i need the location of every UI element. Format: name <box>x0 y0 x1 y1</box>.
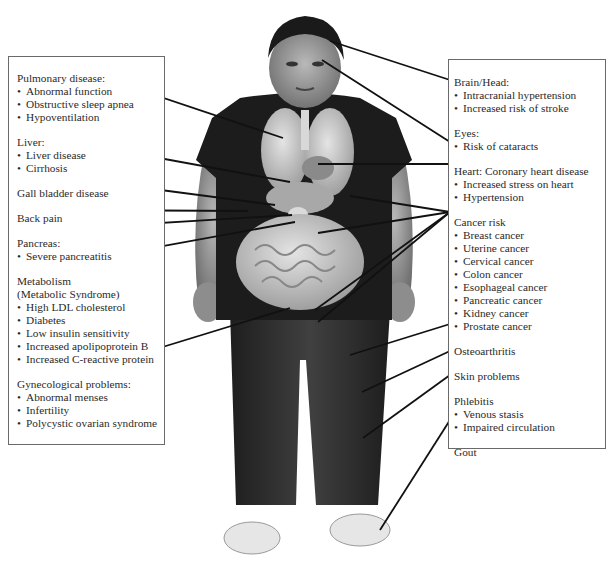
group-osteoarthritis: Osteoarthritis <box>454 345 605 358</box>
group-phlebitis: Phlebitis Venous stasis Impaired circula… <box>454 395 605 434</box>
list-item: High LDL cholesterol <box>17 301 164 314</box>
group-heart: Heart: Coronary heart disease Increased … <box>454 165 605 204</box>
list-item: Diabetes <box>17 314 164 327</box>
list-item: Abnormal menses <box>17 391 164 404</box>
list-item: Increased stress on heart <box>454 178 605 191</box>
list-item: Increased risk of stroke <box>454 102 605 115</box>
heading-back-pain: Back pain <box>17 212 164 225</box>
list-item: Risk of cataracts <box>454 140 605 153</box>
group-gynecological: Gynecological problems: Abnormal menses … <box>17 378 164 430</box>
list-item: Infertility <box>17 404 164 417</box>
group-pancreas: Pancreas: Severe pancreatitis <box>17 237 164 263</box>
list-item: Kidney cancer <box>454 307 605 320</box>
list-item: Abnormal function <box>17 85 164 98</box>
list-item: Pancreatic cancer <box>454 294 605 307</box>
group-liver: Liver: Liver disease Cirrhosis <box>17 136 164 175</box>
list-item: Hypoventilation <box>17 111 164 124</box>
heading-metabolism: Metabolism <box>17 275 164 288</box>
heading-pulmonary: Pulmonary disease: <box>17 72 164 85</box>
list-item: Uterine cancer <box>454 242 605 255</box>
group-gall-bladder: Gall bladder disease <box>17 187 164 200</box>
heading-heart: Heart: Coronary heart disease <box>454 165 605 178</box>
list-item: Venous stasis <box>454 408 605 421</box>
list-item: Low insulin sensitivity <box>17 327 164 340</box>
right-conditions-panel: Brain/Head: Intracranial hypertension In… <box>448 59 606 449</box>
left-conditions-panel: Pulmonary disease: Abnormal function Obs… <box>8 56 165 445</box>
group-cancer-risk: Cancer risk Breast cancer Uterine cancer… <box>454 216 605 333</box>
list-item: Hypertension <box>454 191 605 204</box>
list-item: Breast cancer <box>454 229 605 242</box>
heading-eyes: Eyes: <box>454 127 605 140</box>
heading-phlebitis: Phlebitis <box>454 395 605 408</box>
list-item: Severe pancreatitis <box>17 250 164 263</box>
group-gout: Gout <box>454 446 605 459</box>
list-item: Increased apolipoprotein B <box>17 340 164 353</box>
group-back-pain: Back pain <box>17 212 164 225</box>
list-item: Liver disease <box>17 149 164 162</box>
list-item: Intracranial hypertension <box>454 89 605 102</box>
list-item: Impaired circulation <box>454 421 605 434</box>
heading-skin-problems: Skin problems <box>454 370 605 383</box>
list-item: Esophageal cancer <box>454 281 605 294</box>
heading-pancreas: Pancreas: <box>17 237 164 250</box>
subheading-metabolic-syndrome: (Metabolic Syndrome) <box>17 288 164 301</box>
heading-osteoarthritis: Osteoarthritis <box>454 345 605 358</box>
group-pulmonary: Pulmonary disease: Abnormal function Obs… <box>17 72 164 124</box>
heading-gout: Gout <box>454 446 605 459</box>
heading-brain-head: Brain/Head: <box>454 76 605 89</box>
group-metabolism: Metabolism (Metabolic Syndrome) High LDL… <box>17 275 164 366</box>
heading-gynecological: Gynecological problems: <box>17 378 164 391</box>
group-skin-problems: Skin problems <box>454 370 605 383</box>
list-item: Colon cancer <box>454 268 605 281</box>
heading-liver: Liver: <box>17 136 164 149</box>
list-item: Increased C-reactive protein <box>17 353 164 366</box>
group-eyes: Eyes: Risk of cataracts <box>454 127 605 153</box>
list-item: Polycystic ovarian syndrome <box>17 417 164 430</box>
heading-cancer-risk: Cancer risk <box>454 216 605 229</box>
list-item: Obstructive sleep apnea <box>17 98 164 111</box>
heading-gall-bladder: Gall bladder disease <box>17 187 164 200</box>
group-brain-head: Brain/Head: Intracranial hypertension In… <box>454 76 605 115</box>
list-item: Cirrhosis <box>17 162 164 175</box>
list-item: Prostate cancer <box>454 320 605 333</box>
list-item: Cervical cancer <box>454 255 605 268</box>
